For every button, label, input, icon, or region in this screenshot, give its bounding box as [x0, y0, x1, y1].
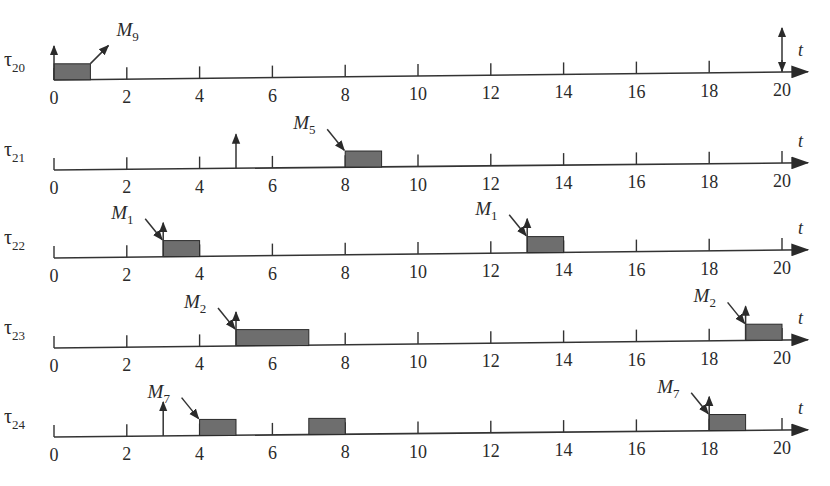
message-label: M2	[183, 291, 206, 316]
tick-label: 10	[409, 442, 427, 462]
execution-block	[200, 419, 236, 435]
timing-diagram: τ20t02468101214161820M9τ21t0246810121416…	[0, 0, 830, 486]
time-axis	[54, 430, 808, 437]
tick-label: 2	[122, 444, 131, 464]
tick-label: 14	[555, 440, 573, 460]
execution-block	[54, 64, 90, 80]
time-axis-label: t	[798, 308, 804, 328]
tick-label: 2	[122, 355, 131, 375]
tick-label: 2	[122, 177, 131, 197]
tick-label: 10	[409, 84, 427, 104]
tick-label: 20	[773, 258, 791, 278]
tick-label: 0	[50, 356, 59, 376]
tick-label: 6	[268, 176, 277, 196]
tick-label: 2	[122, 87, 131, 107]
tick-label: 4	[195, 444, 204, 464]
tick-label: 18	[700, 439, 718, 459]
tick-label: 8	[341, 175, 350, 195]
message-label: M7	[656, 376, 680, 401]
task-label: τ24	[4, 405, 26, 432]
tick-label: 8	[341, 85, 350, 105]
message-label: M1	[110, 202, 133, 227]
tick-label: 8	[341, 263, 350, 283]
tick-label: 12	[482, 441, 500, 461]
tick-label: 4	[195, 354, 204, 374]
tick-label: 0	[50, 445, 59, 465]
tick-label: 10	[409, 262, 427, 282]
tick-label: 16	[627, 260, 645, 280]
message-in-arrow-icon	[145, 219, 162, 240]
task-row-23: τ23t02468101214161820M2M2	[4, 285, 808, 376]
task-label: τ22	[4, 226, 25, 253]
execution-block	[746, 324, 782, 340]
tick-label: 4	[195, 86, 204, 106]
time-axis-label: t	[798, 218, 804, 238]
message-label: M5	[292, 112, 315, 137]
tick-label: 12	[482, 261, 500, 281]
execution-block	[236, 330, 309, 346]
tick-label: 6	[268, 264, 277, 284]
tick-label: 0	[50, 178, 59, 198]
tick-label: 18	[700, 349, 718, 369]
message-in-arrow-icon	[182, 398, 199, 419]
message-label: M1	[474, 198, 497, 223]
time-axis	[54, 163, 808, 170]
message-out-arrow-icon	[90, 46, 108, 64]
tick-label: 14	[555, 82, 573, 102]
tick-label: 6	[268, 86, 277, 106]
tick-label: 8	[341, 353, 350, 373]
tick-label: 20	[773, 171, 791, 191]
task-label: τ20	[4, 48, 25, 75]
tick-label: 16	[627, 350, 645, 370]
message-in-arrow-icon	[509, 215, 526, 236]
rows-layer: τ20t02468101214161820M9τ21t0246810121416…	[4, 19, 808, 465]
tick-label: 12	[482, 174, 500, 194]
message-in-arrow-icon	[691, 393, 708, 414]
tick-label: 12	[482, 351, 500, 371]
tick-label: 4	[195, 177, 204, 197]
execution-block	[527, 237, 563, 253]
message-in-arrow-icon	[728, 302, 745, 323]
tick-label: 6	[268, 354, 277, 374]
tick-label: 10	[409, 352, 427, 372]
task-row-21: τ21t02468101214161820M5	[4, 112, 808, 198]
time-axis	[54, 340, 808, 348]
tick-label: 6	[268, 443, 277, 463]
tick-label: 2	[122, 265, 131, 285]
tick-label: 20	[773, 438, 791, 458]
tick-label: 18	[700, 81, 718, 101]
task-label: τ23	[4, 316, 25, 343]
message-in-arrow-icon	[218, 308, 235, 329]
tick-label: 10	[409, 175, 427, 195]
task-row-20: τ20t02468101214161820M9	[4, 19, 808, 108]
tick-label: 0	[50, 266, 59, 286]
tick-label: 12	[482, 83, 500, 103]
tick-label: 20	[773, 348, 791, 368]
tick-label: 14	[555, 350, 573, 370]
tick-label: 16	[627, 82, 645, 102]
message-label: M9	[115, 19, 138, 44]
task-label: τ21	[4, 138, 25, 165]
tick-label: 14	[555, 173, 573, 193]
task-row-24: τ24t02468101214161820M7M7	[4, 376, 808, 465]
tick-label: 18	[700, 259, 718, 279]
execution-block	[163, 241, 199, 257]
time-axis-label: t	[798, 131, 804, 151]
tick-label: 20	[773, 80, 791, 100]
execution-block	[709, 415, 745, 431]
tick-label: 8	[341, 442, 350, 462]
tick-label: 18	[700, 172, 718, 192]
execution-block	[309, 418, 345, 434]
message-label: M7	[147, 381, 171, 406]
time-axis-label: t	[798, 40, 804, 60]
message-label: M2	[693, 285, 716, 310]
tick-label: 16	[627, 172, 645, 192]
time-axis	[54, 72, 808, 80]
tick-label: 14	[555, 260, 573, 280]
task-row-22: τ22t02468101214161820M1M1	[4, 198, 808, 286]
tick-label: 16	[627, 439, 645, 459]
time-axis-label: t	[798, 398, 804, 418]
tick-label: 4	[195, 264, 204, 284]
tick-label: 0	[50, 88, 59, 108]
message-in-arrow-icon	[327, 129, 344, 150]
